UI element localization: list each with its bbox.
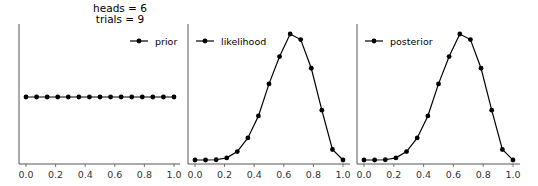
panel-posterior: 0.00.20.40.60.81.0posterior (356, 24, 520, 180)
x-tick-label: 0.4 (247, 169, 262, 180)
data-point (288, 32, 293, 37)
x-tick-label: 0.0 (356, 169, 371, 180)
legend-likelihood: likelihood (196, 36, 266, 47)
data-point (98, 95, 103, 100)
x-tick-label: 0.4 (78, 169, 93, 180)
data-point (425, 114, 430, 119)
data-point (129, 95, 134, 100)
data-point (404, 149, 409, 154)
panel-likelihood: 0.00.20.40.60.81.0likelihood (187, 24, 350, 180)
panel-prior: 0.00.20.40.60.81.0prior (18, 24, 181, 180)
data-point (298, 37, 303, 42)
x-tick-label: 1.0 (335, 169, 350, 180)
legend-label: posterior (390, 36, 433, 47)
data-point (309, 66, 314, 71)
x-tick-label: 0.6 (446, 169, 461, 180)
likelihood-line (195, 34, 343, 160)
data-point (319, 108, 324, 113)
x-tick-label: 1.0 (505, 169, 520, 180)
data-point (500, 147, 505, 152)
data-point (24, 95, 29, 100)
posterior-line (364, 34, 513, 160)
data-point (224, 155, 229, 160)
data-point (457, 32, 462, 37)
x-tick-label: 0.8 (137, 169, 152, 180)
data-point (436, 81, 441, 86)
legend-posterior: posterior (365, 36, 433, 47)
x-tick-label: 0.0 (187, 169, 202, 180)
legend-marker (203, 39, 208, 44)
data-point (140, 95, 145, 100)
x-tick-label: 0.2 (386, 169, 401, 180)
legend-marker (372, 39, 377, 44)
x-tick-label: 0.8 (476, 169, 491, 180)
data-point (34, 95, 39, 100)
figure: 0.00.20.40.60.81.0prior0.00.20.40.60.81.… (0, 0, 538, 186)
data-point (341, 158, 346, 163)
data-point (214, 157, 219, 162)
data-point (172, 95, 177, 100)
x-tick-label: 0.0 (18, 169, 33, 180)
data-point (87, 95, 92, 100)
data-point (267, 81, 272, 86)
data-point (76, 95, 81, 100)
data-point (45, 95, 50, 100)
data-point (394, 155, 399, 160)
data-point (511, 158, 516, 163)
data-point (235, 149, 240, 154)
data-point (489, 108, 494, 113)
legend-label: prior (155, 36, 177, 47)
x-tick-label: 0.6 (276, 169, 291, 180)
x-tick-label: 0.4 (416, 169, 431, 180)
data-point (119, 95, 124, 100)
x-tick-label: 0.2 (217, 169, 232, 180)
data-point (447, 54, 452, 59)
data-point (372, 158, 377, 163)
legend-marker (137, 39, 142, 44)
data-point (150, 95, 155, 100)
data-point (256, 114, 261, 119)
x-tick-label: 1.0 (166, 169, 181, 180)
data-point (479, 66, 484, 71)
data-point (66, 95, 71, 100)
data-point (468, 37, 473, 42)
data-point (203, 158, 208, 163)
x-tick-label: 0.2 (48, 169, 63, 180)
legend-prior: prior (130, 36, 177, 47)
data-point (193, 158, 198, 163)
data-point (330, 147, 335, 152)
x-tick-label: 0.8 (306, 169, 321, 180)
x-tick-label: 0.6 (107, 169, 122, 180)
legend-label: likelihood (221, 36, 266, 47)
data-point (415, 135, 420, 140)
data-point (245, 135, 250, 140)
data-point (108, 95, 113, 100)
data-point (362, 158, 367, 163)
data-point (55, 95, 60, 100)
data-point (161, 95, 166, 100)
data-point (383, 157, 388, 162)
data-point (277, 54, 282, 59)
